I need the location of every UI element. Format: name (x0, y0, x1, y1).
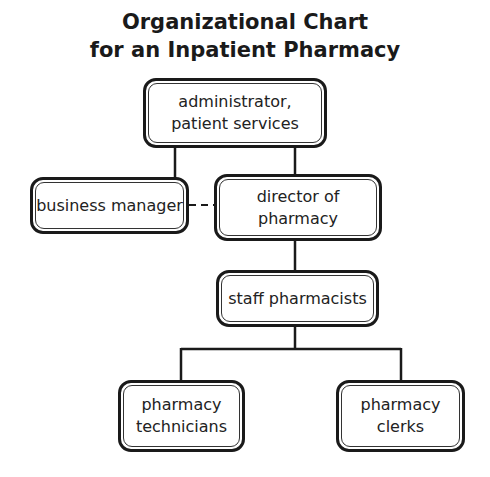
node-staff-pharmacists: staff pharmacists (216, 270, 379, 327)
node-director: director of pharmacy (214, 174, 382, 241)
node-business-manager: business manager (30, 177, 189, 234)
node-administrator-label: administrator, patient services (148, 83, 322, 143)
node-pharmacy-clerks: pharmacy clerks (336, 380, 465, 452)
node-business-manager-label: business manager (35, 182, 184, 229)
node-pharmacy-technicians: pharmacy technicians (118, 380, 245, 452)
node-director-label: director of pharmacy (219, 179, 377, 236)
node-pharmacy-technicians-label: pharmacy technicians (123, 385, 240, 447)
node-pharmacy-clerks-label: pharmacy clerks (341, 385, 460, 447)
node-staff-pharmacists-label: staff pharmacists (221, 275, 374, 322)
node-administrator: administrator, patient services (143, 78, 327, 148)
